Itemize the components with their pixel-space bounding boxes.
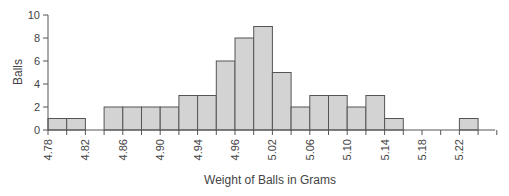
histogram-bar	[198, 96, 217, 131]
y-tick-label: 6	[34, 55, 40, 67]
histogram-bar	[160, 107, 179, 130]
x-tick-label: 4.86	[117, 139, 129, 160]
y-tick-label: 4	[34, 78, 40, 90]
histogram-bar	[48, 119, 67, 131]
x-tick-label: 4.94	[192, 139, 204, 160]
y-tick-label: 0	[34, 124, 40, 136]
histogram-bar	[104, 107, 123, 130]
histogram-bar	[142, 107, 161, 130]
histogram-bar	[216, 61, 235, 130]
x-tick-label: 4.90	[154, 139, 166, 160]
x-tick-label: 5.06	[304, 139, 316, 160]
y-tick-label: 8	[34, 32, 40, 44]
histogram-bar	[310, 96, 329, 131]
x-tick-label: 5.22	[453, 139, 465, 160]
y-axis-ticks: 0246810	[28, 9, 48, 136]
histogram-bar	[329, 96, 348, 131]
histogram-bar	[385, 119, 404, 131]
histogram-bar	[291, 107, 310, 130]
histogram-bar	[235, 38, 254, 130]
histogram-chart: 0246810 4.784.824.864.904.944.965.025.06…	[0, 0, 509, 196]
x-tick-label: 5.18	[416, 139, 428, 160]
x-tick-label: 5.14	[379, 139, 391, 160]
x-tick-label: 5.10	[341, 139, 353, 160]
y-tick-label: 2	[34, 101, 40, 113]
histogram-bar	[347, 107, 366, 130]
x-tick-label: 4.96	[229, 139, 241, 160]
histogram-bars	[48, 27, 478, 131]
x-axis-title: Weight of Balls in Grams	[204, 173, 336, 187]
x-tick-label: 4.82	[79, 139, 91, 160]
x-tick-label: 4.78	[42, 139, 54, 160]
histogram-bar	[179, 96, 198, 131]
histogram-bar	[272, 73, 291, 131]
y-tick-label: 10	[28, 9, 40, 21]
x-axis-ticks: 4.784.824.864.904.944.965.025.065.105.14…	[42, 130, 497, 160]
histogram-bar	[459, 119, 478, 131]
histogram-bar	[67, 119, 86, 131]
histogram-bar	[254, 27, 273, 131]
y-axis-title: Balls	[11, 59, 25, 85]
histogram-bar	[123, 107, 142, 130]
x-tick-label: 5.02	[266, 139, 278, 160]
histogram-bar	[366, 96, 385, 131]
